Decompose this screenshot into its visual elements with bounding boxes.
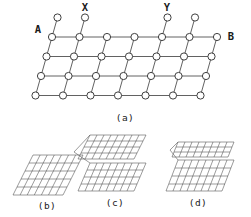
caption-c: (c) — [106, 197, 125, 208]
label-X: X — [82, 1, 89, 13]
caption-b: (b) — [38, 200, 57, 211]
figure-root: A B X Y (a) (b) — [0, 0, 251, 217]
caption-d: (d) — [189, 197, 208, 208]
label-B: B — [228, 30, 234, 42]
lattice-figure-svg: A B X Y (a) (b) — [0, 0, 251, 217]
label-Y: Y — [164, 1, 171, 13]
caption-a: (a) — [116, 112, 135, 123]
lattice-node-A — [48, 33, 55, 40]
label-A: A — [35, 23, 42, 35]
lattice-node-B — [213, 33, 220, 40]
